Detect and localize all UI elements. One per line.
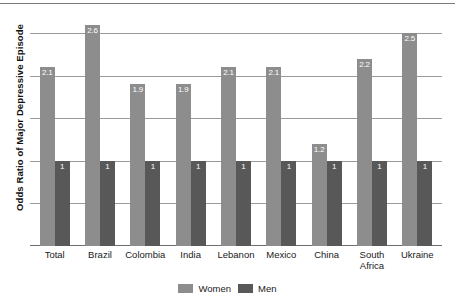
x-tick-label: Lebanon [213,249,258,271]
bar-women[interactable]: 1.2 [312,144,327,246]
bar-value-label: 2.5 [402,34,417,44]
bar-value-label: 1.9 [130,85,145,95]
bar-groups: 2.112.611.911.912.112.111.212.212.51 [30,12,442,246]
bar-value-label: 1 [236,162,251,172]
bar-group: 2.21 [349,12,394,246]
x-axis-labels: TotalBrazilColombiaIndiaLebanonMexicoChi… [30,249,442,271]
bar-value-label: 1.2 [312,145,327,155]
legend-label-women: Women [198,283,231,294]
x-tick-label: Mexico [259,249,304,271]
bar-men[interactable]: 1 [417,161,432,246]
bar-women[interactable]: 2.5 [402,33,417,246]
chart-root: Odds Ratio of Major Depressive Episode 2… [0,0,455,306]
bar-men[interactable]: 1 [191,161,206,246]
bar-group: 2.11 [32,12,77,246]
x-tick-label: Ukraine [395,249,440,271]
bar-group: 2.51 [395,12,440,246]
bar-value-label: 2.6 [85,26,100,36]
legend-swatch-men-icon [238,284,253,293]
y-axis-title: Odds Ratio of Major Depressive Episode [14,3,25,233]
bar-value-label: 1 [145,162,160,172]
plot-area: 2.112.611.911.912.112.111.212.212.51 [30,12,442,246]
bar-value-label: 1 [191,162,206,172]
x-tick-label: Total [32,249,77,271]
legend-item-women[interactable]: Women [178,283,231,294]
bar-group: 1.91 [123,12,168,246]
bar-group: 2.61 [77,12,122,246]
bar-value-label: 1 [281,162,296,172]
bar-value-label: 1.9 [176,85,191,95]
bar-value-label: 1 [417,162,432,172]
x-tick-label: Brazil [77,249,122,271]
top-divider [0,3,455,4]
bar-women[interactable]: 1.9 [130,84,145,246]
bar-value-label: 1 [327,162,342,172]
bar-women[interactable]: 2.6 [85,25,100,246]
bar-women[interactable]: 1.9 [176,84,191,246]
x-tick-label: South Africa [349,249,394,271]
bar-men[interactable]: 1 [55,161,70,246]
bar-group: 2.11 [259,12,304,246]
legend-swatch-women-icon [178,284,193,293]
legend-label-men: Men [258,283,276,294]
bar-group: 1.91 [168,12,213,246]
bar-value-label: 1 [372,162,387,172]
bar-value-label: 2.2 [357,60,372,70]
bar-men[interactable]: 1 [236,161,251,246]
bar-men[interactable]: 1 [100,161,115,246]
bar-women[interactable]: 2.1 [40,67,55,246]
x-tick-label: India [168,249,213,271]
bar-women[interactable]: 2.2 [357,59,372,246]
bar-value-label: 1 [100,162,115,172]
bar-women[interactable]: 2.1 [221,67,236,246]
bar-men[interactable]: 1 [145,161,160,246]
x-tick-label: China [304,249,349,271]
chart-legend: Women Men [0,283,455,294]
bar-value-label: 1 [55,162,70,172]
bar-group: 1.21 [304,12,349,246]
bar-group: 2.11 [213,12,258,246]
x-tick-label: Colombia [123,249,168,271]
bar-men[interactable]: 1 [327,161,342,246]
bar-value-label: 2.1 [40,68,55,78]
bar-women[interactable]: 2.1 [266,67,281,246]
bar-value-label: 2.1 [266,68,281,78]
bar-men[interactable]: 1 [281,161,296,246]
bar-value-label: 2.1 [221,68,236,78]
bar-men[interactable]: 1 [372,161,387,246]
legend-item-men[interactable]: Men [238,283,276,294]
